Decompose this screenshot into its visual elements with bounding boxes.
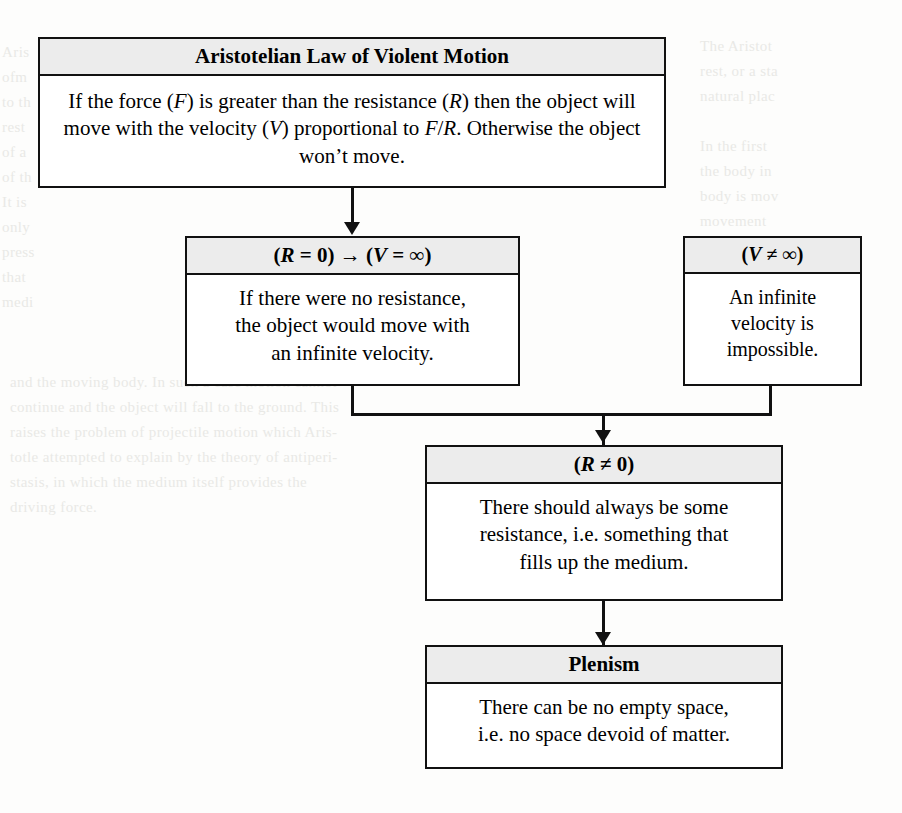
connector-r-zero-stub <box>351 386 354 416</box>
node-aristotelian-law-header: Aristotelian Law of Violent Motion <box>40 39 664 76</box>
law-var-R-2: R <box>443 116 456 140</box>
connector-law-to-r-zero-arrowhead <box>344 222 360 235</box>
r-not-zero-body-line-1: There should always be some <box>480 495 728 519</box>
node-r-equals-zero: (R = 0) → (V = ∞) If there were no resis… <box>185 236 520 386</box>
connector-v-not-infinite-stub <box>769 386 772 416</box>
r-zero-var-R: R <box>281 243 295 267</box>
node-r-not-zero-body: There should always be some resistance, … <box>427 484 781 586</box>
diagram-canvas: Aris ofm to th rest of a of th It is onl… <box>0 0 902 813</box>
page-bleed-text-bottom: and the moving body. In such a case moti… <box>10 370 430 520</box>
r-not-zero-header-open: ( <box>574 452 581 476</box>
law-body-seg-2: ) is greater than the resistance ( <box>187 89 449 113</box>
r-zero-var-V: V <box>373 243 387 267</box>
node-plenism-body: There can be no empty space, i.e. no spa… <box>427 684 781 759</box>
node-v-not-infinite: (V ≠ ∞) An infinite velocity is impossib… <box>683 236 862 386</box>
v-inf-body-line-1: An infinite <box>729 286 816 308</box>
plenism-body-line-2: i.e. no space devoid of matter. <box>478 722 730 746</box>
node-v-not-infinite-header: (V ≠ ∞) <box>685 238 860 274</box>
node-r-equals-zero-body: If there were no resistance, the object … <box>187 275 518 377</box>
node-plenism-header: Plenism <box>427 647 781 684</box>
r-not-zero-var-R: R <box>581 452 595 476</box>
connector-merge-to-r-not-zero-arrowhead <box>595 430 611 443</box>
v-inf-var-V: V <box>748 243 761 265</box>
node-v-not-infinite-body: An infinite velocity is impossible. <box>685 274 860 372</box>
law-var-F-2: F <box>425 116 438 140</box>
r-not-zero-header-rest: ≠ 0) <box>595 452 635 476</box>
law-body-seg-5: ) proportional <box>282 116 398 140</box>
v-inf-body-line-2: velocity is <box>731 312 814 334</box>
page-bleed-text-left: Aris ofm to th rest of a of th It is onl… <box>2 40 36 315</box>
node-r-not-zero-header: (R ≠ 0) <box>427 447 781 484</box>
law-var-V: V <box>269 116 282 140</box>
law-body-seg-3: ) then <box>462 89 510 113</box>
law-body-seg-1: If the force ( <box>68 89 174 113</box>
connector-r-not-zero-to-plenism-arrowhead <box>595 632 611 645</box>
connector-merge-bar <box>351 413 772 416</box>
plenism-body-line-1: There can be no empty space, <box>479 695 729 719</box>
v-inf-header-rest: ≠ ∞) <box>762 243 804 265</box>
r-zero-body-line-3: an infinite velocity. <box>271 341 434 365</box>
v-inf-body-line-3: impossible. <box>727 338 819 360</box>
r-not-zero-body-line-3: fills up the medium. <box>519 550 688 574</box>
r-zero-header-inf: = ∞) <box>387 243 431 267</box>
node-r-not-zero: (R ≠ 0) There should always be some resi… <box>425 445 783 601</box>
node-r-equals-zero-header: (R = 0) → (V = ∞) <box>187 238 518 275</box>
r-not-zero-body-line-2: resistance, i.e. something that <box>480 522 728 546</box>
law-var-R-1: R <box>449 89 462 113</box>
connector-law-to-r-zero-line <box>351 188 354 225</box>
r-zero-header-eq: = 0) → ( <box>295 243 373 267</box>
node-aristotelian-law-body: If the force (F) is greater than the res… <box>40 76 664 180</box>
r-zero-header-open: ( <box>274 243 281 267</box>
node-aristotelian-law: Aristotelian Law of Violent Motion If th… <box>38 37 666 188</box>
law-var-F-1: F <box>174 89 187 113</box>
r-zero-body-line-2: the object would move with <box>235 313 469 337</box>
node-plenism: Plenism There can be no empty space, i.e… <box>425 645 783 769</box>
r-zero-body-line-1: If there were no resistance, <box>239 286 466 310</box>
law-body-seg-6: to <box>403 116 425 140</box>
